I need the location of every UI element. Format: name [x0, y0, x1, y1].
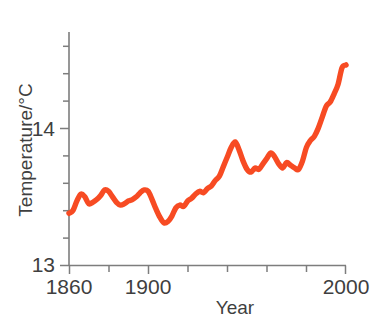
x-tick-label-2000: 2000: [323, 275, 370, 298]
y-axis-title: Temperature/°C: [15, 83, 36, 216]
x-axis-title: Year: [216, 297, 255, 318]
plot-area: [69, 65, 346, 223]
y-axis-group: 13 14 Temperature/°C: [15, 32, 69, 276]
x-axis-group: 1860 1900 2000 Year: [46, 266, 370, 319]
x-tick-label-1860: 1860: [46, 275, 93, 298]
temperature-series-line: [69, 65, 346, 223]
temperature-line-chart: 13 14 Temperature/°C 1860 1900 2000 Year: [0, 0, 386, 324]
x-tick-label-1900: 1900: [125, 275, 172, 298]
chart-canvas: 13 14 Temperature/°C 1860 1900 2000 Year: [0, 0, 386, 324]
y-tick-label-13: 13: [32, 253, 55, 276]
